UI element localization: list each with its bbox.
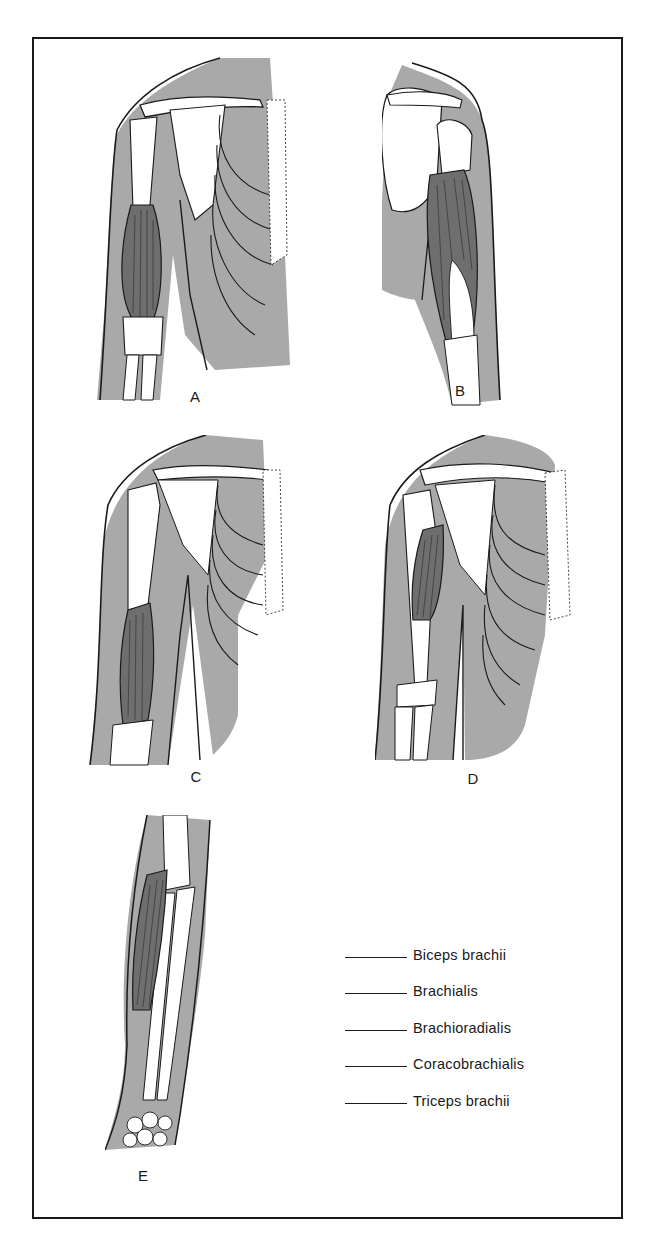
key-label: Biceps brachii	[413, 947, 506, 963]
key-label: Brachioradialis	[413, 1020, 511, 1036]
panel-label-d: D	[463, 770, 483, 787]
key-item: Brachioradialis	[345, 999, 524, 1036]
answer-blank[interactable]	[345, 993, 407, 994]
anatomy-drawing-e	[105, 815, 215, 1155]
anatomy-drawing-c	[88, 435, 288, 785]
answer-blank[interactable]	[345, 1103, 407, 1104]
panel-label-e: E	[133, 1167, 153, 1184]
panel-b: B	[382, 60, 542, 410]
panel-c: C	[88, 435, 288, 785]
panel-label-a: A	[185, 388, 205, 405]
answer-blank[interactable]	[345, 1066, 407, 1067]
answer-blank[interactable]	[345, 957, 407, 958]
panel-label-c: C	[186, 768, 206, 785]
key-item: Brachialis	[345, 963, 524, 1000]
anatomy-drawing-b	[382, 60, 542, 410]
panel-d: D	[375, 435, 575, 765]
key-item: Coracobrachialis	[345, 1036, 524, 1073]
key-item: Biceps brachii	[345, 926, 524, 963]
key-label: Triceps brachii	[413, 1093, 510, 1109]
key-item: Triceps brachii	[345, 1072, 524, 1109]
key-label: Brachialis	[413, 983, 478, 999]
key-label: Coracobrachialis	[413, 1056, 524, 1072]
anatomy-drawing-d	[375, 435, 575, 765]
panel-label-b: B	[450, 382, 470, 399]
panel-a: A	[95, 55, 305, 405]
anatomy-drawing-a	[95, 55, 305, 405]
answer-blank[interactable]	[345, 1030, 407, 1031]
muscle-key: Biceps brachii Brachialis Brachioradiali…	[345, 926, 524, 1109]
panel-e: E	[105, 815, 215, 1155]
